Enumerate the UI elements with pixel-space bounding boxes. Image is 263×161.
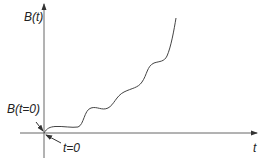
y-axis-label: B(t) <box>24 11 43 23</box>
origin-value-label: B(t=0) <box>7 103 40 115</box>
diagram-canvas <box>0 0 263 161</box>
origin-time-pointer <box>46 135 61 143</box>
origin-time-label: t=0 <box>63 142 80 154</box>
origin-value-pointer <box>36 122 43 131</box>
b-of-t-curve <box>44 18 176 133</box>
x-axis-label: t <box>253 142 256 154</box>
